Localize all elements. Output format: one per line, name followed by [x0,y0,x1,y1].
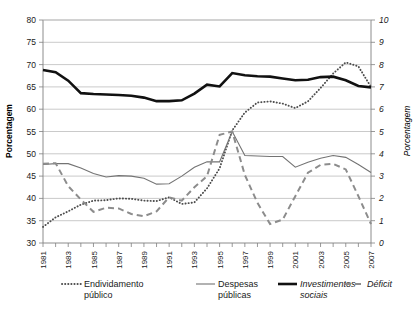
line-chart: 3035404550556065707580 012345678910 1981… [0,0,419,311]
y-tick-label-left: 35 [27,216,37,226]
x-tick-label: 2003 [317,250,326,268]
y-tick-label-left: 70 [27,60,37,70]
y-tick-label-right: 0 [379,238,384,248]
y-axis-right-labels: 012345678910 [378,15,389,248]
y-axis-left-labels: 3035404550556065707580 [27,15,37,248]
y-tick-label-left: 40 [27,193,37,203]
legend-label: sociais [300,290,328,300]
legend-label: Déficit [367,279,393,289]
y-axis-right-title: Porcentagem [402,106,412,157]
x-tick-label: 1989 [140,250,149,268]
legend-label: Endividamento [84,279,144,289]
y-tick-label-right: 8 [379,60,384,70]
x-tick-label: 1985 [90,250,99,268]
x-tick-label: 1999 [266,250,275,268]
x-axis-labels: 1981198319851987198919911993199519971999… [39,250,376,268]
y-tick-label-right: 2 [378,193,384,203]
legend-label: Despesas [218,279,259,289]
y-tick-label-right: 4 [379,149,384,159]
x-tick-label: 2001 [291,250,300,268]
chart-legend: EndividamentopúblicoDespesaspúblicasInve… [62,279,393,300]
y-tick-label-right: 6 [379,104,384,114]
y-tick-label-right: 1 [379,216,384,226]
y-tick-label-left: 65 [27,82,37,92]
grid-lines [43,20,371,221]
y-tick-label-left: 50 [27,149,37,159]
series-line [43,132,371,225]
y-tick-label-right: 9 [379,37,384,47]
x-tick-label: 2005 [342,250,351,268]
x-tick-label: 1991 [165,250,174,268]
y-tick-label-right: 3 [379,171,384,181]
legend-label: público [84,290,113,300]
x-tick-label: 1983 [64,250,73,268]
y-tick-label-left: 80 [27,15,37,25]
y-tick-label-right: 10 [379,15,389,25]
series-line [43,70,371,101]
y-tick-label-left: 75 [27,37,37,47]
x-tick-label: 1993 [190,250,199,268]
y-tick-label-left: 55 [27,127,37,137]
y-tick-label-left: 45 [27,171,37,181]
y-tick-label-right: 5 [379,127,384,137]
x-tick-label: 1995 [216,250,225,268]
legend-label: públicas [218,290,252,300]
x-tick-label: 1981 [39,250,48,268]
y-tick-label-left: 60 [27,104,37,114]
x-tick-label: 1997 [241,250,250,268]
y-tick-label-left: 30 [27,238,37,248]
y-tick-label-right: 7 [379,82,384,92]
x-tick-label: 2007 [367,250,376,268]
chart-container: 3035404550556065707580 012345678910 1981… [0,0,419,311]
axis-ticks [39,20,375,247]
y-axis-left-title: Porcentagem [4,104,14,158]
x-tick-label: 1987 [115,250,124,268]
